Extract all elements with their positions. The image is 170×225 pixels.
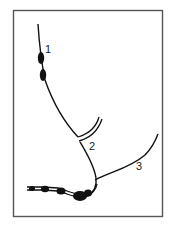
strand-3 (95, 134, 158, 180)
double-branch-outer (78, 117, 99, 137)
diagram-figure: 1 2 3 (0, 0, 170, 225)
bead-bundle-2 (41, 186, 49, 192)
bead-bundle-3 (57, 187, 66, 194)
figure-frame (14, 11, 163, 217)
label-3: 3 (136, 161, 142, 172)
label-2: 2 (89, 141, 95, 152)
bead-bundle-1 (29, 186, 35, 191)
bead-bundle-5 (84, 190, 92, 197)
diagram-svg (0, 0, 170, 225)
label-1: 1 (45, 44, 51, 55)
bead-1a (38, 52, 44, 64)
bead-1b (40, 69, 46, 81)
